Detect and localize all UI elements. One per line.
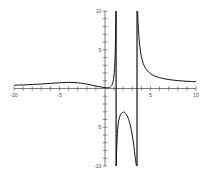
y-tick-label: 10 (96, 8, 102, 14)
plot-canvas: -10-5510 105-5-10 (0, 0, 209, 173)
y-tick-label: 5 (99, 47, 102, 53)
x-tick-label: 10 (193, 92, 199, 98)
function-plot: -10-5510 105-5-10 (0, 0, 209, 173)
x-tick-label: 5 (149, 92, 152, 98)
x-tick-label: -5 (57, 92, 62, 98)
y-tick-label: -5 (97, 124, 102, 130)
x-tick-label: -10 (10, 92, 18, 98)
y-tick-label: -10 (94, 163, 102, 169)
